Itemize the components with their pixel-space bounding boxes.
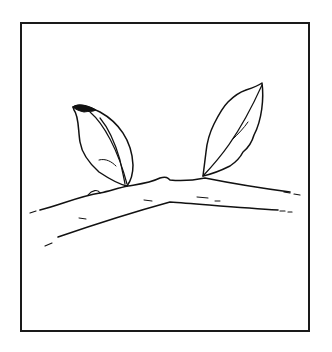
twig-with-leaves-drawing bbox=[0, 0, 332, 352]
left-leaf bbox=[73, 105, 133, 186]
right-leaf bbox=[203, 83, 263, 176]
branch bbox=[30, 177, 300, 246]
